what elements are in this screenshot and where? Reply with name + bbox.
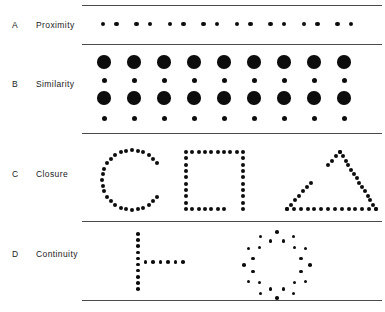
- continuity-wavy-circle-dot: [259, 292, 263, 296]
- continuity-vertical-dot: [136, 251, 140, 255]
- closure-circle-dot: [155, 195, 159, 199]
- closure-square-dot: [241, 156, 245, 160]
- rule-c-d: [82, 221, 382, 222]
- continuity-horizontal-dot: [159, 260, 163, 264]
- similarity-dot-large: [277, 91, 291, 105]
- similarity-dot-large: [277, 55, 291, 69]
- row-label-proximity: Proximity: [36, 20, 75, 30]
- proximity-dot: [349, 22, 354, 27]
- closure-triangle-dot: [341, 154, 345, 158]
- similarity-dot-large: [247, 55, 261, 69]
- proximity-dot: [302, 22, 307, 27]
- row-label-closure: Closure: [36, 169, 68, 179]
- proximity-dot: [235, 22, 240, 27]
- closure-square-dot: [184, 201, 188, 205]
- similarity-dot-small: [132, 78, 137, 83]
- closure-triangle-dot: [326, 163, 330, 167]
- continuity-wavy-circle-dot: [247, 247, 251, 251]
- similarity-dot-small: [102, 116, 107, 121]
- proximity-dot: [282, 22, 287, 27]
- similarity-dot-large: [217, 91, 231, 105]
- closure-circle-dot: [101, 172, 105, 176]
- closure-triangle-dot: [367, 207, 371, 211]
- closure-square-dot: [197, 150, 201, 154]
- continuity-wavy-circle-dot: [292, 292, 296, 296]
- closure-circle-dot: [119, 150, 123, 154]
- continuity-wavy-circle-dot: [269, 239, 273, 243]
- closure-circle-dot: [147, 203, 151, 207]
- closure-circle-dot: [151, 199, 155, 203]
- continuity-horizontal-dot: [166, 260, 170, 264]
- proximity-dot: [215, 22, 220, 27]
- similarity-dot-large: [97, 55, 111, 69]
- continuity-wavy-circle-dot: [251, 270, 255, 274]
- closure-circle-dot: [147, 153, 151, 157]
- row-letter-b: B: [12, 79, 18, 89]
- closure-circle-dot: [109, 199, 113, 203]
- continuity-wavy-circle-dot: [293, 281, 297, 285]
- similarity-dot-large: [157, 91, 171, 105]
- similarity-dot-small: [162, 78, 167, 83]
- closure-square-dot: [190, 150, 194, 154]
- closure-circle-dot: [136, 149, 140, 153]
- closure-circle-dot: [113, 203, 117, 207]
- closure-triangle-dot: [309, 181, 313, 185]
- continuity-wavy-circle-dot: [258, 281, 262, 285]
- similarity-dot-small: [282, 116, 287, 121]
- continuity-wavy-circle-dot: [282, 287, 286, 291]
- proximity-dot: [168, 22, 173, 27]
- closure-square-dot: [209, 150, 213, 154]
- similarity-dot-small: [192, 78, 197, 83]
- closure-square-dot: [197, 207, 201, 211]
- closure-triangle-dot: [353, 207, 357, 211]
- closure-square-dot: [241, 163, 245, 167]
- continuity-horizontal-dot: [181, 260, 185, 264]
- closure-square-dot: [184, 188, 188, 192]
- closure-triangle-dot: [293, 198, 297, 202]
- continuity-wavy-circle-dot: [304, 247, 308, 251]
- similarity-dot-small: [102, 78, 107, 83]
- closure-triangle-dot: [333, 207, 337, 211]
- closure-triangle-dot: [292, 207, 296, 211]
- similarity-dot-small: [312, 116, 317, 121]
- closure-triangle-dot: [312, 207, 316, 211]
- closure-square-dot: [203, 150, 207, 154]
- similarity-dot-large: [247, 91, 261, 105]
- closure-square-dot: [184, 163, 188, 167]
- closure-square-dot: [241, 201, 245, 205]
- continuity-vertical-dot: [136, 287, 140, 291]
- closure-triangle-dot: [289, 203, 293, 207]
- closure-triangle-dot: [363, 189, 367, 193]
- similarity-dot-small: [222, 78, 227, 83]
- closure-circle-dot: [124, 149, 128, 153]
- closure-square-dot: [184, 156, 188, 160]
- closure-square-dot: [241, 175, 245, 179]
- continuity-wavy-circle-dot: [304, 280, 308, 284]
- closure-square-dot: [203, 207, 207, 211]
- continuity-wavy-circle-dot: [258, 246, 262, 250]
- similarity-dot-large: [157, 55, 171, 69]
- closure-triangle-dot: [355, 176, 359, 180]
- rule-b-c: [82, 133, 382, 134]
- continuity-vertical-dot: [136, 281, 140, 285]
- closure-circle-dot: [155, 161, 159, 165]
- closure-circle-dot: [119, 206, 123, 210]
- continuity-vertical-dot: [136, 244, 140, 248]
- closure-triangle-dot: [360, 185, 364, 189]
- continuity-vertical-dot: [136, 232, 140, 236]
- similarity-dot-small: [252, 78, 257, 83]
- closure-triangle-dot: [326, 207, 330, 211]
- similarity-dot-large: [337, 91, 351, 105]
- closure-square-dot: [228, 150, 232, 154]
- row-label-continuity: Continuity: [36, 249, 78, 259]
- closure-circle-dot: [124, 207, 128, 211]
- closure-square-dot: [184, 169, 188, 173]
- closure-triangle-dot: [306, 207, 310, 211]
- closure-triangle-dot: [285, 207, 289, 211]
- row-letter-c: C: [12, 169, 18, 179]
- row-letter-d: D: [12, 249, 18, 259]
- closure-square-dot: [209, 207, 213, 211]
- similarity-dot-large: [337, 55, 351, 69]
- closure-square-dot: [184, 207, 188, 211]
- closure-square-dot: [184, 150, 188, 154]
